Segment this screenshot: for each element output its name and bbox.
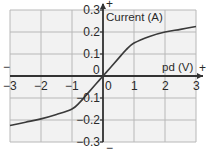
x-tick-label: 1 [131,79,138,93]
y-negative-marker: − [106,141,113,152]
x-tick-label: −3 [3,79,17,93]
y-positive-marker: + [106,0,113,11]
x-tick-label: 2 [162,79,169,93]
x-tick-label: −2 [34,79,48,93]
x-tick-label: 3 [193,79,200,93]
x-tick-label: 0 [105,79,112,93]
y-tick-label: 0 [93,63,100,77]
x-positive-marker: + [199,61,206,75]
y-axis-label: Current (A) [106,11,163,23]
current-pd-chart: −3−2−10123 0.30.20.10−0.1−0.2−0.3 Curren… [0,0,206,152]
y-tick-label: −0.3 [76,135,100,149]
y-tick-label: −0.2 [76,113,100,127]
y-tick-label: 0.2 [83,25,100,39]
x-negative-marker: − [3,60,10,74]
x-axis-label: pd (V) [162,61,193,73]
y-tick-label: −0.1 [76,91,100,105]
y-tick-label: 0.1 [83,47,100,61]
y-tick-label: 0.3 [83,3,100,17]
